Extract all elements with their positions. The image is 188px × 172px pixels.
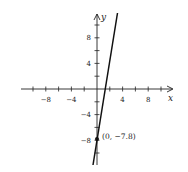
x-tick-label: −4 bbox=[66, 96, 77, 104]
y-tick-label: 8 bbox=[87, 34, 91, 42]
y-axis-label: y bbox=[100, 12, 107, 22]
x-axis-label: x bbox=[168, 93, 173, 103]
chart-canvas: −8 −4 4 8 8 4 −4 −8 x y (0, −7.8) bbox=[0, 0, 188, 172]
y-tick-label: −4 bbox=[81, 111, 92, 119]
x-tick-label: 4 bbox=[120, 96, 125, 104]
x-tick-label: −8 bbox=[41, 96, 51, 104]
intercept-point bbox=[95, 137, 99, 141]
intercept-label: (0, −7.8) bbox=[102, 132, 136, 141]
x-tick-label: 8 bbox=[146, 96, 150, 104]
y-tick-label: −8 bbox=[81, 137, 91, 145]
y-tick-label: 4 bbox=[87, 60, 92, 68]
